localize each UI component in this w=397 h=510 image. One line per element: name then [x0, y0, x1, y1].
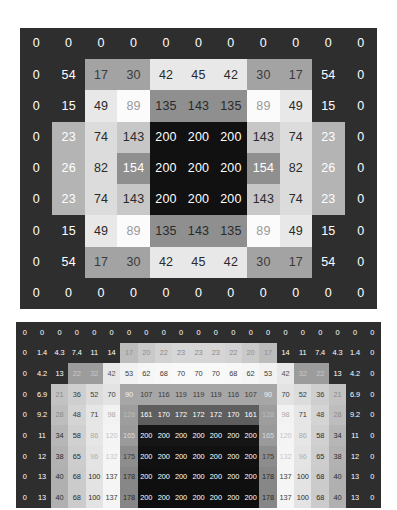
heatmap-cell: 0 — [345, 278, 377, 309]
heatmap-cell: 200 — [150, 184, 182, 215]
heatmap-cell: 17 — [85, 59, 117, 90]
heatmap-cell: 40 — [51, 467, 68, 488]
heatmap-cell: 68 — [68, 467, 85, 488]
heatmap-cell: 89 — [117, 215, 149, 246]
heatmap-cell: 165 — [120, 425, 137, 446]
heatmap-cell: 0 — [280, 278, 312, 309]
heatmap-cell: 0 — [52, 28, 84, 59]
heatmap-cell: 15 — [52, 90, 84, 121]
heatmap-cell: 137 — [103, 467, 120, 488]
heatmap-cell: 11 — [346, 425, 363, 446]
heatmap-cell: 178 — [120, 467, 137, 488]
heatmap-cell: 143 — [117, 122, 149, 153]
heatmap-cell: 0 — [225, 322, 242, 343]
heatmap-cell: 52 — [86, 384, 103, 405]
heatmap-cell: 38 — [51, 446, 68, 467]
heatmap-cell: 0 — [16, 363, 33, 384]
heatmap-cell: 23 — [190, 343, 207, 364]
heatmap-cell: 0 — [182, 28, 214, 59]
heatmap-cell: 13 — [346, 467, 363, 488]
heatmap-cell: 96 — [294, 446, 311, 467]
heatmap-cell: 0 — [259, 322, 276, 343]
heatmap-cell: 200 — [150, 153, 182, 184]
heatmap-cell: 42 — [215, 247, 247, 278]
heatmap-cell: 86 — [294, 425, 311, 446]
heatmap-cell: 17 — [85, 247, 117, 278]
heatmap-cell: 200 — [207, 446, 224, 467]
heatmap-cell: 170 — [155, 405, 172, 426]
heatmap-cell: 0 — [20, 247, 52, 278]
heatmap-cell: 4.3 — [51, 343, 68, 364]
heatmap-cell: 70 — [277, 384, 294, 405]
heatmap-cell: 90 — [120, 384, 137, 405]
heatmap-cell: 0 — [207, 322, 224, 343]
heatmap-cell: 200 — [190, 467, 207, 488]
heatmap-cell: 22 — [225, 343, 242, 364]
heatmap-cell: 100 — [86, 467, 103, 488]
heatmap-cell: 154 — [247, 153, 279, 184]
heatmap-cell: 22 — [68, 363, 85, 384]
heatmap-cell: 200 — [215, 153, 247, 184]
heatmap-cell: 128 — [120, 405, 137, 426]
heatmap-cell: 49 — [85, 215, 117, 246]
heatmap-cell: 62 — [242, 363, 259, 384]
heatmap-cell: 0 — [215, 28, 247, 59]
heatmap-cell: 200 — [242, 425, 259, 446]
heatmap-cell: 0 — [345, 184, 377, 215]
heatmap-cell: 13 — [33, 487, 50, 508]
heatmap-cell: 42 — [215, 59, 247, 90]
heatmap-cell: 0 — [364, 487, 381, 508]
heatmap-cell: 0 — [364, 425, 381, 446]
heatmap-cell: 200 — [242, 467, 259, 488]
heatmap-cell: 0 — [20, 59, 52, 90]
heatmap-cell: 200 — [215, 184, 247, 215]
heatmap-cell: 70 — [207, 363, 224, 384]
heatmap-cell: 0 — [33, 322, 50, 343]
heatmap-cell: 42 — [277, 363, 294, 384]
coarse-heatmap-grid: 0000000000005417304245423017540015498913… — [20, 28, 377, 309]
heatmap-cell: 0 — [16, 467, 33, 488]
heatmap-cell: 120 — [277, 425, 294, 446]
heatmap-cell: 23 — [312, 184, 344, 215]
heatmap-cell: 42 — [150, 59, 182, 90]
heatmap-cell: 54 — [52, 59, 84, 90]
heatmap-cell: 119 — [172, 384, 189, 405]
heatmap-cell: 119 — [207, 384, 224, 405]
heatmap-cell: 0 — [345, 90, 377, 121]
heatmap-cell: 89 — [117, 90, 149, 121]
heatmap-cell: 143 — [117, 184, 149, 215]
heatmap-cell: 200 — [182, 122, 214, 153]
heatmap-cell: 100 — [294, 487, 311, 508]
heatmap-cell: 107 — [242, 384, 259, 405]
heatmap-cell: 49 — [85, 90, 117, 121]
heatmap-cell: 30 — [117, 247, 149, 278]
heatmap-cell: 170 — [225, 405, 242, 426]
heatmap-cell: 200 — [155, 487, 172, 508]
heatmap-cell: 74 — [280, 184, 312, 215]
heatmap-cell: 100 — [86, 487, 103, 508]
heatmap-cell: 23 — [52, 122, 84, 153]
heatmap-cell: 200 — [138, 446, 155, 467]
heatmap-cell: 200 — [225, 425, 242, 446]
heatmap-cell: 132 — [277, 446, 294, 467]
heatmap-cell: 70 — [172, 363, 189, 384]
heatmap-cell: 13 — [346, 487, 363, 508]
heatmap-cell: 20 — [138, 343, 155, 364]
heatmap-cell: 32 — [294, 363, 311, 384]
heatmap-cell: 200 — [172, 425, 189, 446]
heatmap-cell: 21 — [329, 384, 346, 405]
heatmap-cell: 120 — [103, 425, 120, 446]
heatmap-cell: 0 — [242, 322, 259, 343]
heatmap-cell: 13 — [33, 467, 50, 488]
heatmap-cell: 23 — [172, 343, 189, 364]
heatmap-cell: 0 — [364, 446, 381, 467]
heatmap-cell: 42 — [103, 363, 120, 384]
heatmap-cell: 137 — [277, 467, 294, 488]
heatmap-cell: 26 — [312, 153, 344, 184]
heatmap-cell: 86 — [86, 425, 103, 446]
heatmap-cell: 0 — [51, 322, 68, 343]
heatmap-cell: 200 — [225, 487, 242, 508]
fine-heatmap-grid: 00000000000000000000001.44.37.4111417202… — [16, 322, 381, 508]
heatmap-cell: 11 — [86, 343, 103, 364]
heatmap-cell: 200 — [225, 467, 242, 488]
